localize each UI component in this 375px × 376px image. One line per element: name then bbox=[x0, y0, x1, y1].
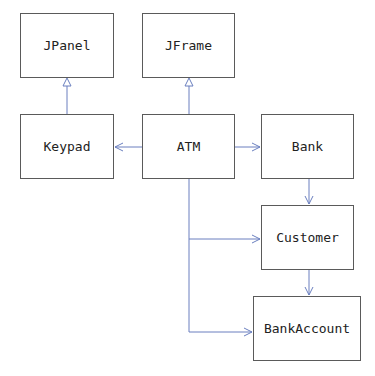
class-label: JPanel bbox=[44, 38, 91, 53]
inheritance-arrowhead-icon bbox=[185, 78, 193, 86]
class-keypad: Keypad bbox=[20, 114, 114, 179]
inheritance-arrowhead-icon bbox=[63, 78, 71, 86]
class-label: BankAccount bbox=[264, 321, 350, 336]
class-jpanel: JPanel bbox=[20, 13, 114, 78]
class-bank: Bank bbox=[261, 114, 354, 179]
class-atm: ATM bbox=[142, 114, 235, 179]
class-label: ATM bbox=[177, 139, 200, 154]
class-label: Bank bbox=[292, 139, 323, 154]
class-jframe: JFrame bbox=[142, 13, 235, 78]
class-label: JFrame bbox=[165, 38, 212, 53]
class-bankaccount: BankAccount bbox=[253, 296, 361, 361]
class-customer: Customer bbox=[261, 205, 354, 270]
class-label: Keypad bbox=[44, 139, 91, 154]
class-label: Customer bbox=[276, 230, 339, 245]
